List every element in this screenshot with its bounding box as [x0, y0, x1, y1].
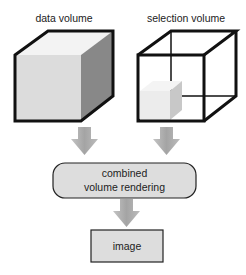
data-volume-label: data volume [35, 12, 92, 24]
arrow-down-icon [153, 127, 180, 155]
arrow-down-icon [71, 127, 98, 155]
data-volume-cube [15, 31, 113, 121]
image-box: image [91, 230, 163, 262]
combined-label-line2: volume rendering [84, 181, 165, 193]
combined-label-line1: combined [102, 167, 148, 179]
combined-volume-rendering-box: combined volume rendering [53, 163, 196, 198]
arrow-down-icon [113, 199, 140, 227]
selection-volume-cube [138, 31, 236, 121]
selection-subcube [140, 81, 182, 120]
image-label: image [113, 240, 142, 252]
volume-rendering-diagram: data volume selection volume combined vo… [0, 0, 246, 275]
selection-volume-label: selection volume [147, 12, 225, 24]
